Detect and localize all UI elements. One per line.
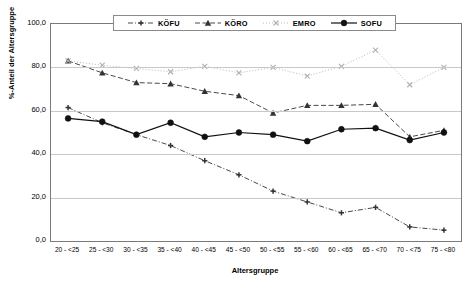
legend-entry-sofu[interactable]: SOFU	[330, 18, 382, 28]
data-point-marker-circle	[236, 130, 242, 136]
x-axis-tick-label: 60 - <65	[323, 246, 357, 258]
data-point-marker-circle	[373, 125, 379, 131]
x-axis-title: Altersgruppe	[50, 266, 460, 275]
y-axis-tick-label: 0,0	[0, 235, 46, 244]
data-point-marker-circle	[407, 137, 413, 143]
x-axis-tick-label: 75 - <80	[426, 246, 460, 258]
data-point-marker-circle	[168, 120, 174, 126]
x-axis-tick-label: 40 - <45	[187, 246, 221, 258]
legend-label: KÖRO	[225, 19, 248, 28]
data-point-marker-triangle	[99, 70, 105, 76]
legend-swatch-icon	[262, 18, 290, 28]
gridline	[51, 111, 461, 112]
x-axis-tick-label: 25 - <30	[84, 246, 118, 258]
gridline	[51, 154, 461, 155]
legend-swatch-icon	[194, 18, 222, 28]
data-point-marker-circle	[270, 132, 276, 138]
gridline	[51, 198, 461, 199]
data-point-marker-circle	[134, 132, 140, 138]
series-sofu	[65, 115, 447, 144]
legend-swatch-icon	[330, 18, 358, 28]
x-axis-tick-label: 20 - <25	[50, 246, 84, 258]
legend-swatch-icon	[127, 18, 155, 28]
data-point-marker-circle	[441, 130, 447, 136]
series-canvas	[51, 24, 461, 241]
data-point-marker-circle	[341, 20, 347, 26]
y-axis-title: %-Anteil der Altersgruppe	[7, 0, 16, 128]
legend-entry-köro[interactable]: KÖRO	[194, 18, 248, 28]
chart-figure: 100,080,060,040,020,00,0 %-Anteil der Al…	[0, 0, 475, 289]
x-axis-tick-label: 70 - <75	[392, 246, 426, 258]
x-axis-tick-label: 45 - <50	[221, 246, 255, 258]
legend-label: EMRO	[293, 19, 316, 28]
data-point-marker-circle	[339, 126, 345, 132]
x-axis-tick-label: 30 - <35	[118, 246, 152, 258]
data-point-marker-circle	[99, 119, 105, 125]
data-point-marker-triangle	[372, 101, 378, 107]
data-point-marker-triangle	[167, 80, 173, 86]
plot-area	[50, 23, 462, 242]
legend-entry-emro[interactable]: EMRO	[262, 18, 316, 28]
data-point-marker-circle	[304, 138, 310, 144]
x-axis-tick-label: 65 - <70	[358, 246, 392, 258]
legend-entry-köfu[interactable]: KÖFU	[127, 18, 180, 28]
x-axis-ticks: 20 - <2525 - <3030 - <3535 - <4040 - <45…	[50, 246, 460, 258]
legend-label: SOFU	[361, 19, 382, 28]
x-axis-tick-label: 35 - <40	[153, 246, 187, 258]
x-axis-tick-label: 50 - <55	[255, 246, 289, 258]
series-line	[68, 108, 444, 231]
gridline	[51, 67, 461, 68]
series-köfu	[65, 105, 446, 233]
series-line	[68, 118, 444, 141]
series-line	[68, 61, 444, 137]
chart-legend: KÖFUKÖROEMROSOFU	[113, 15, 396, 31]
legend-label: KÖFU	[158, 19, 180, 28]
y-axis-title-wrap: %-Anteil der Altersgruppe	[20, 60, 32, 210]
data-point-marker-circle	[202, 134, 208, 140]
x-axis-tick-label: 55 - <60	[289, 246, 323, 258]
data-point-marker-circle	[65, 115, 71, 121]
